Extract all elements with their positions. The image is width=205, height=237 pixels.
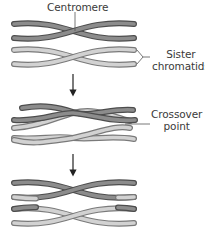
stage-2-crossover bbox=[14, 106, 150, 142]
sister-label-line2: chromatids bbox=[152, 60, 205, 72]
crossover-label-line1: Crossover bbox=[151, 108, 202, 120]
sister-label-line1: Sister bbox=[152, 48, 205, 60]
crossover-label-line2: point bbox=[151, 120, 202, 132]
sister-chromatids-bracket bbox=[137, 50, 150, 64]
dark-chromatid-pair bbox=[14, 23, 134, 39]
stage-3-recombinants bbox=[14, 182, 134, 224]
crossover-point-label: Crossover point bbox=[151, 108, 202, 132]
centromere-label: Centromere bbox=[47, 1, 108, 13]
light-chromatid-pair bbox=[14, 49, 134, 65]
sister-chromatids-label: Sister chromatids bbox=[152, 48, 205, 72]
stage-1-chromosomes bbox=[14, 12, 150, 65]
